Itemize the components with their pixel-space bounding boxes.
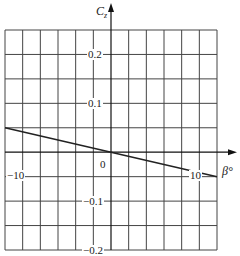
chart-canvas — [0, 0, 240, 256]
y-tick-0.1: 0.1 — [87, 98, 103, 109]
x-tick-0: 0 — [99, 159, 107, 170]
y-tick-0.2: 0.2 — [87, 49, 103, 60]
y-tick-neg0.2: −0.2 — [82, 245, 104, 256]
axes — [5, 3, 237, 250]
x-axis-label: β° — [221, 166, 234, 177]
y-tick-neg0.1: −0.1 — [82, 196, 104, 207]
x-tick-10: 10 — [189, 170, 202, 181]
x-tick-neg10: −10 — [6, 170, 25, 181]
y-axis-label: Cz — [95, 6, 108, 21]
